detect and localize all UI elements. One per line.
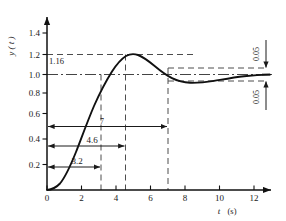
x-axis-unit: (s) bbox=[228, 206, 237, 216]
y-tick-label-2: 0.6 bbox=[29, 109, 41, 119]
x-tick-label-4: 8 bbox=[183, 193, 188, 203]
y-tick-label-4: 1.0 bbox=[29, 70, 41, 80]
peak-value-label: 1.16 bbox=[49, 56, 64, 66]
x-tick-label-0: 0 bbox=[45, 193, 50, 203]
peak-time-measurement: 4.6 bbox=[48, 135, 125, 149]
y-tick-label-6: 1.4 bbox=[29, 28, 41, 38]
y-axis-label: y ( t ) bbox=[6, 36, 16, 56]
step-response-figure: 0.2 0.4 0.6 0.8 1.0 1.2 1.4 0 2 4 6 8 10… bbox=[0, 0, 286, 221]
settling-time-label: 7 bbox=[100, 117, 104, 126]
y-tick-label-3: 0.8 bbox=[29, 88, 41, 98]
x-tick-label-5: 10 bbox=[215, 193, 225, 203]
y-tick-label-1: 0.4 bbox=[29, 134, 41, 144]
x-tick-label-2: 4 bbox=[114, 193, 119, 203]
x-tick-label-1: 2 bbox=[79, 193, 84, 203]
y-tick-label-5: 1.2 bbox=[29, 50, 40, 60]
tolerance-lower-label: 0.05 bbox=[252, 90, 261, 104]
settling-time-measurement: 7 bbox=[48, 117, 167, 129]
reference-lines bbox=[47, 55, 272, 191]
y-tick-labels: 0.2 0.4 0.6 0.8 1.0 1.2 1.4 bbox=[29, 28, 41, 170]
x-tick-label-6: 12 bbox=[250, 193, 259, 203]
y-tick-label-0: 0.2 bbox=[29, 160, 40, 170]
x-axis-label: t bbox=[218, 206, 221, 216]
tolerance-upper-label: 0.05 bbox=[252, 47, 261, 61]
x-tick-labels: 0 2 4 6 8 10 12 bbox=[45, 193, 259, 203]
rise-time-measurement: 3.2 bbox=[48, 156, 100, 170]
x-tick-label-3: 6 bbox=[148, 193, 153, 203]
rise-time-label: 3.2 bbox=[71, 156, 82, 166]
peak-time-label: 4.6 bbox=[86, 135, 98, 145]
